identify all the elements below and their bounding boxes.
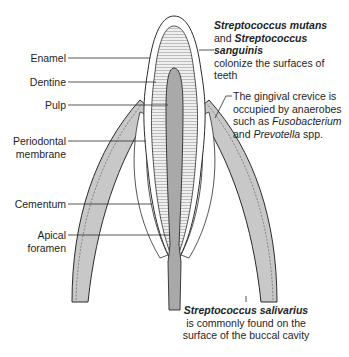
species-mutans: Streptococcus mutans [214, 19, 327, 31]
text-such-as: such as [233, 115, 272, 127]
label-enamel: Enamel [0, 52, 66, 65]
annotation-buccal-cavity: Streptococcus salivarius is commonly fou… [180, 304, 312, 342]
text-and-2: and [233, 128, 253, 140]
label-dentine: Dentine [0, 76, 66, 89]
text-gingival-1: The gingival crevice is [233, 90, 349, 103]
label-periodontal-line2: membrane [0, 148, 66, 161]
text-buccal-surface: surface of the buccal cavity [180, 329, 312, 342]
text-colonize: colonize the surfaces of [214, 57, 349, 70]
label-periodontal-membrane: Periodontal membrane [0, 135, 66, 160]
text-spp: spp. [300, 128, 323, 140]
text-and: and [214, 32, 234, 44]
text-teeth: teeth [214, 69, 349, 82]
pulp [166, 68, 183, 310]
text-gingival-2: occupied by anaerobes [233, 103, 349, 116]
annotation-tooth-surface: Streptococcus mutans and Streptococcus s… [214, 19, 349, 82]
label-cementum: Cementum [0, 198, 66, 211]
label-apical-foramen: Apical foramen [0, 229, 66, 254]
label-periodontal-line1: Periodontal [0, 135, 66, 148]
genus-fusobacterium: Fusobacterium [272, 115, 341, 127]
species-salivarius: Streptococcus salivarius [180, 304, 312, 317]
annotation-gingival-crevice: The gingival crevice is occupied by anae… [233, 90, 349, 140]
text-commonly-found: is commonly found on the [180, 317, 312, 330]
label-apical-line2: foramen [0, 242, 66, 255]
genus-prevotella: Prevotella [253, 128, 300, 140]
label-pulp: Pulp [0, 99, 66, 112]
label-apical-line1: Apical [0, 229, 66, 242]
